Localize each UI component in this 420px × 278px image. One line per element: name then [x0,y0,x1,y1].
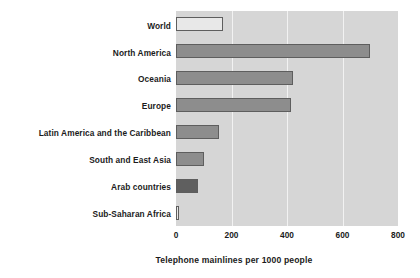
bar [176,17,223,31]
bar [176,44,370,58]
bar [176,152,204,166]
category-label: Sub-Saharan Africa [0,209,171,219]
bar [176,179,198,193]
x-tick-label: 800 [391,230,405,240]
category-label: Europe [0,101,171,111]
plot-area [176,11,398,226]
x-axis-title: Telephone mainlines per 1000 people [0,255,420,265]
x-axis-title-text: Telephone mainlines per 1000 people [156,255,313,265]
x-tick-label: 0 [174,230,179,240]
x-tick-label: 200 [225,230,239,240]
bar-chart: WorldNorth AmericaOceaniaEuropeLatin Ame… [0,0,420,278]
category-label: Arab countries [0,182,171,192]
category-label: Oceania [0,74,171,84]
bar [176,71,293,85]
bar [176,125,219,139]
gridline-400 [287,11,288,226]
bar [176,98,291,112]
gridline-200 [232,11,233,226]
category-label: South and East Asia [0,155,171,165]
category-label: Latin America and the Caribbean [0,128,171,138]
bar [176,206,179,220]
x-tick-label: 400 [280,230,294,240]
x-tick-label: 600 [336,230,350,240]
gridline-600 [343,11,344,226]
category-label: World [0,21,171,31]
category-label: North America [0,48,171,58]
